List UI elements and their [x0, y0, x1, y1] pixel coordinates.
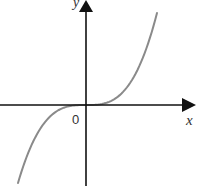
cubic-curve: [18, 13, 157, 183]
y-axis-arrow-icon: [79, 0, 93, 12]
x-axis-label: x: [185, 112, 193, 128]
cubic-graph: y x 0: [0, 0, 205, 186]
x-axis-arrow-icon: [182, 98, 196, 112]
origin-label: 0: [72, 112, 79, 127]
y-axis-label: y: [71, 0, 80, 10]
